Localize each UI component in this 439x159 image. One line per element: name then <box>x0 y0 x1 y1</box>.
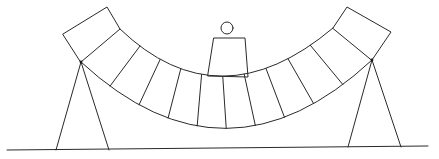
left-end-block <box>63 7 120 62</box>
right-support-leg <box>348 60 372 147</box>
left-pivot-point <box>80 61 83 64</box>
beam-diagram <box>0 0 439 159</box>
supports <box>56 60 401 150</box>
right-support-leg <box>372 60 401 147</box>
segment-divider <box>223 76 227 128</box>
beam-segment-dividers <box>110 45 343 128</box>
segment-divider <box>110 46 140 86</box>
segment-divider <box>197 74 201 126</box>
left-support-leg <box>81 62 109 150</box>
segmented-beam <box>63 7 391 129</box>
segment-divider <box>168 69 181 118</box>
ground-line <box>7 146 428 150</box>
diagram-canvas <box>0 0 439 159</box>
segment-divider <box>139 59 160 104</box>
right-pivot-point <box>371 59 374 62</box>
figure-head <box>221 22 233 34</box>
segment-divider <box>288 59 314 104</box>
left-support-leg <box>56 62 81 150</box>
segment-divider <box>266 68 285 117</box>
segment-divider <box>244 74 255 125</box>
figure-body <box>208 38 248 77</box>
standing-figure <box>208 22 248 77</box>
segment-divider <box>310 45 342 84</box>
right-end-block <box>333 7 391 60</box>
beam-inner-edge <box>120 28 333 76</box>
beam-outer-edge <box>81 60 372 129</box>
